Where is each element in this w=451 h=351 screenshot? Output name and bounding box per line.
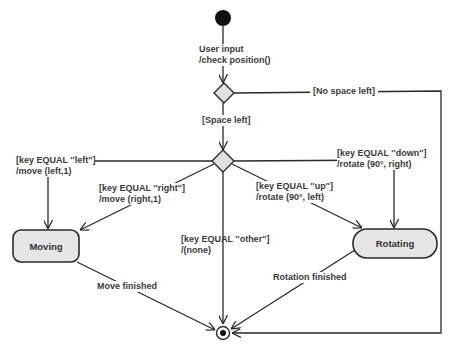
label-right-line1: [key EQUAL ''right''] — [99, 183, 185, 193]
transition-no-space — [232, 91, 441, 333]
label-rotation-finished: Rotation finished — [273, 272, 347, 283]
transition-rotation-finished — [231, 250, 355, 329]
label-left: [key EQUAL ''left''] /move (left,1) — [16, 155, 95, 177]
state-moving-label: Moving — [13, 241, 79, 252]
label-up-line2: /rotate (90°, left) — [256, 192, 324, 202]
initial-node — [215, 10, 231, 26]
label-input-line1: User input — [199, 44, 244, 54]
label-down-line2: /rotate (90°, right) — [337, 159, 412, 169]
transition-move-finished — [77, 262, 215, 330]
label-other: [key EQUAL ''other''] /(none) — [181, 234, 269, 256]
label-input: User input /check position() — [199, 44, 271, 66]
state-rotating-label: Rotating — [353, 238, 437, 249]
label-left-line2: /move (left,1) — [16, 166, 72, 176]
label-right-line2: /move (right,1) — [99, 194, 161, 204]
label-down-line1: [key EQUAL ''down''] — [337, 148, 426, 158]
decision-space-node — [214, 83, 234, 103]
label-up: [key EQUAL ''up''] /rotate (90°, left) — [256, 181, 333, 203]
label-other-line1: [key EQUAL ''other''] — [181, 234, 269, 244]
label-space-left: [Space left] — [202, 115, 251, 126]
label-right: [key EQUAL ''right''] /move (right,1) — [99, 183, 185, 205]
label-down: [key EQUAL ''down''] /rotate (90°, right… — [337, 148, 426, 170]
label-up-line1: [key EQUAL ''up''] — [256, 181, 333, 191]
final-node-core — [220, 330, 226, 336]
label-other-line2: /(none) — [181, 245, 211, 255]
label-no-space: [No space left] — [310, 86, 378, 97]
label-left-line1: [key EQUAL ''left''] — [16, 155, 95, 165]
decision-key-node — [212, 150, 234, 172]
label-input-line2: /check position() — [199, 55, 271, 65]
label-move-finished: Move finished — [97, 281, 157, 292]
